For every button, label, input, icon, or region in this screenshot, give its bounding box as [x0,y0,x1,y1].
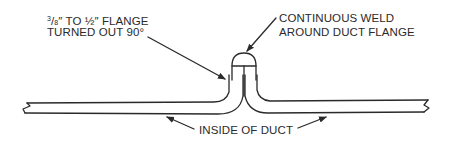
right-duct-wall-outer [257,75,428,101]
flange-turned-label: TURNED OUT 90° [47,26,144,39]
right-break-edge [424,100,429,112]
left-duct-wall-inner [25,75,243,114]
weld-leader-arrow [247,18,276,51]
left-duct-wall-outer [27,75,229,103]
inside-of-duct-label: INSIDE OF DUCT [199,124,293,137]
inside-left-arrow [167,117,194,129]
inside-right-arrow [298,117,326,128]
left-break-edge [23,103,30,113]
weld-label-line2: AROUND DUCT FLANGE [279,26,415,39]
right-duct-wall-inner [245,75,424,113]
flange-leader-arrow [148,37,225,79]
duct-flange-diagram: 3/8″ TO ½″ FLANGE TURNED OUT 90° CONTINU… [0,0,452,155]
weld-label-line1: CONTINUOUS WELD [279,12,394,25]
